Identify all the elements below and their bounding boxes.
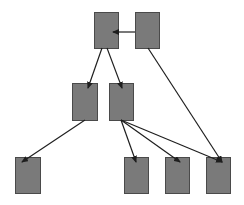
- node-box-n3: [73, 84, 98, 121]
- arrow-n3-to-n5: [22, 120, 85, 162]
- node-box-n2: [136, 13, 160, 49]
- arrow-n1-to-n3: [88, 48, 102, 88]
- tree-diagram: [0, 0, 244, 205]
- node-box-n5: [16, 158, 41, 194]
- arrow-n4-to-n6: [121, 120, 136, 162]
- node-box-n1: [95, 13, 119, 49]
- arrow-n1-to-n4: [107, 48, 122, 88]
- node-box-n7: [166, 158, 190, 194]
- node-box-n4: [110, 84, 134, 121]
- node-box-n8: [207, 158, 231, 194]
- node-box-n6: [125, 158, 149, 194]
- arrow-n2-to-n8: [148, 48, 222, 162]
- nodes-layer: [16, 13, 231, 194]
